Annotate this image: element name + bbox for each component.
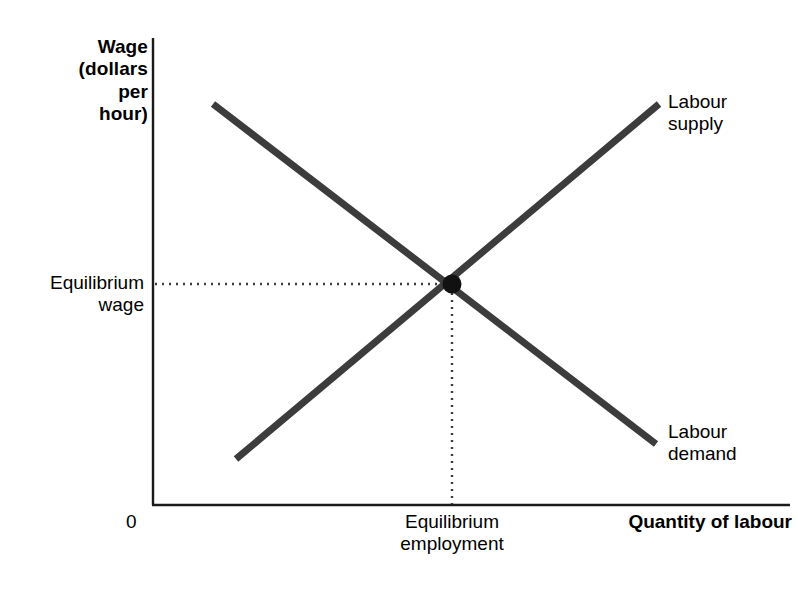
equilibrium-wage-label: Equilibrium wage <box>0 272 144 317</box>
labour-supply-curve-label: Labour supply <box>668 91 727 136</box>
labour-market-equilibrium-figure: Wage (dollars per hour) Equilibrium wage… <box>0 0 798 595</box>
equilibrium-point-marker <box>443 275 462 294</box>
labour-demand-curve <box>213 104 656 444</box>
origin-label: 0 <box>126 511 137 533</box>
x-axis-title: Quantity of labour <box>560 511 792 533</box>
equilibrium-employment-label: Equilibrium employment <box>352 511 552 556</box>
y-axis-title: Wage (dollars per hour) <box>10 36 148 126</box>
labour-demand-curve-label: Labour demand <box>668 421 737 466</box>
